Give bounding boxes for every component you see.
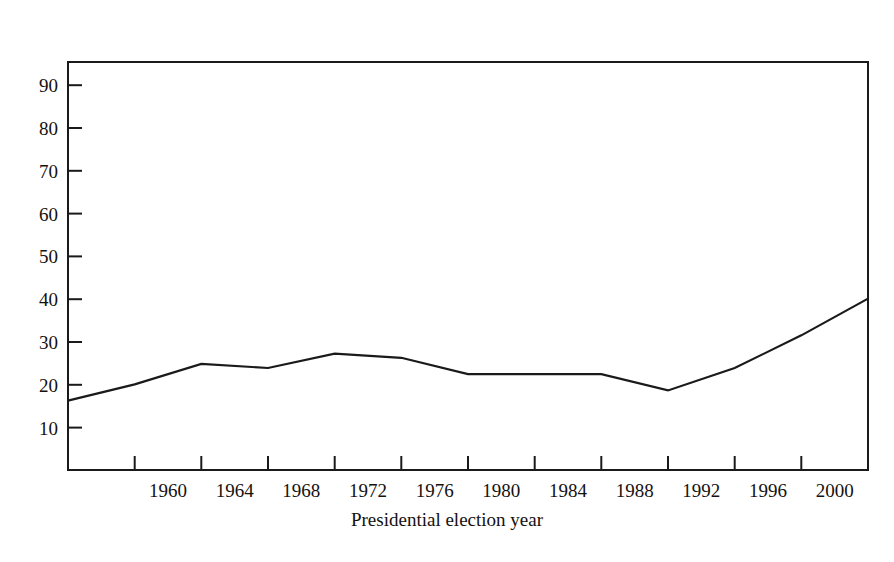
x-tick-label: 1984 [549, 480, 588, 501]
y-axis-label-group: 90 80 70 60 50 40 30 20 10 [39, 75, 58, 438]
line-chart-plot: 90 80 70 60 50 40 30 20 10 [0, 0, 894, 562]
chart-background [0, 0, 894, 562]
x-tick-label: 1968 [282, 480, 320, 501]
x-axis-title: Presidential election year [0, 508, 894, 532]
y-tick-label: 40 [39, 289, 58, 310]
y-tick-label: 50 [39, 246, 58, 267]
y-tick-label: 30 [39, 332, 58, 353]
x-tick-label: 1976 [416, 480, 454, 501]
x-tick-label: 1972 [349, 480, 387, 501]
x-tick-label: 1964 [216, 480, 255, 501]
x-tick-label: 1980 [482, 480, 520, 501]
x-tick-label: 1992 [682, 480, 720, 501]
y-tick-label: 80 [39, 118, 58, 139]
y-tick-label: 10 [39, 418, 58, 439]
y-tick-label: 20 [39, 375, 58, 396]
x-tick-label: 1988 [616, 480, 654, 501]
x-tick-label: 1960 [149, 480, 187, 501]
x-tick-label: 1996 [749, 480, 787, 501]
chart-figure: Percent 90 80 70 60 50 40 30 20 10 [0, 0, 894, 562]
y-tick-label: 90 [39, 75, 58, 96]
y-tick-label: 60 [39, 204, 58, 225]
y-tick-label: 70 [39, 161, 58, 182]
x-tick-label: 2000 [816, 480, 854, 501]
